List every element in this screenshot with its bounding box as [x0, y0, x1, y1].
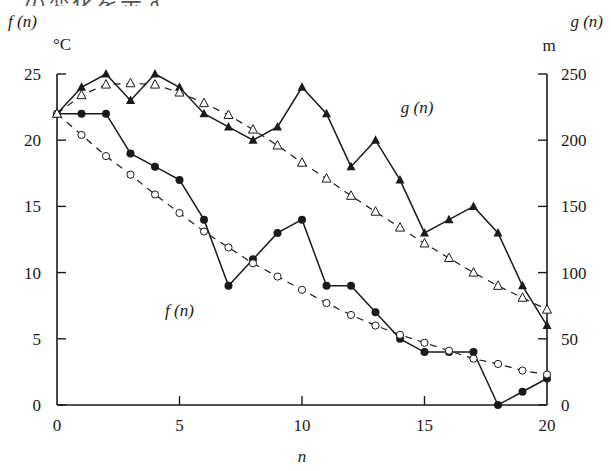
series-g-n-trend	[53, 78, 552, 313]
right-tick-label: 150	[561, 197, 587, 216]
left-tick-label: 20	[24, 131, 41, 150]
open-circle-marker	[78, 131, 85, 138]
series-layer	[53, 69, 552, 409]
filled-triangle-marker	[298, 82, 307, 91]
open-circle-marker	[372, 322, 379, 329]
filled-circle-marker	[347, 282, 355, 290]
right-tick-label: 250	[561, 65, 587, 84]
x-tick-label: 5	[175, 416, 184, 435]
filled-circle-marker	[200, 216, 208, 224]
labels-layer: nf (n)°Cg (n)mg (n)f (n)	[8, 12, 603, 466]
open-circle-marker	[102, 152, 109, 159]
open-triangle-marker	[494, 281, 503, 290]
right-tick-label: 100	[561, 264, 587, 283]
filled-circle-marker	[151, 163, 159, 171]
open-triangle-marker	[420, 238, 429, 247]
open-circle-marker	[519, 367, 526, 374]
open-triangle-marker	[518, 293, 527, 302]
open-circle-marker	[421, 339, 428, 346]
filled-triangle-marker	[102, 69, 111, 78]
x-tick-label: 15	[416, 416, 433, 435]
filled-circle-marker	[323, 282, 331, 290]
left-axis-unit: °C	[53, 35, 71, 54]
x-tick-label: 10	[294, 416, 311, 435]
x-tick-label: 0	[53, 416, 62, 435]
filled-circle-marker	[494, 401, 502, 409]
filled-triangle-marker	[445, 215, 454, 224]
open-triangle-marker	[469, 268, 478, 277]
left-tick-label: 5	[33, 330, 42, 349]
open-triangle-marker	[200, 98, 209, 107]
left-tick-label: 15	[24, 197, 41, 216]
open-circle-marker	[127, 171, 134, 178]
filled-triangle-marker	[151, 69, 160, 78]
left-tick-label: 0	[33, 396, 42, 415]
filled-circle-marker	[519, 388, 527, 396]
left-tick-label: 25	[24, 65, 41, 84]
open-circle-marker	[396, 331, 403, 338]
open-circle-marker	[151, 191, 158, 198]
filled-circle-marker	[78, 110, 86, 118]
open-triangle-marker	[224, 110, 233, 119]
x-axis-title: n	[298, 447, 307, 466]
series-annotation: g (n)	[401, 98, 434, 117]
filled-triangle-marker	[249, 135, 258, 144]
open-circle-marker	[494, 360, 501, 367]
filled-triangle-marker	[224, 122, 233, 131]
x-tick-label: 20	[539, 416, 556, 435]
open-triangle-marker	[396, 223, 405, 232]
filled-circle-marker	[102, 110, 110, 118]
open-triangle-marker	[126, 78, 135, 87]
open-triangle-marker	[371, 207, 380, 216]
right-axis-unit: m	[542, 36, 555, 55]
open-triangle-marker	[322, 174, 331, 183]
axes: 051015202505010015020025005101520	[24, 65, 587, 435]
open-triangle-marker	[102, 80, 111, 89]
left-axis-title: f (n)	[8, 12, 37, 31]
filled-circle-marker	[274, 229, 282, 237]
open-triangle-marker	[445, 253, 454, 262]
open-triangle-marker	[543, 305, 552, 314]
open-circle-marker	[470, 355, 477, 362]
open-circle-marker	[225, 244, 232, 251]
filled-circle-marker	[421, 348, 429, 356]
filled-triangle-marker	[469, 201, 478, 210]
open-circle-marker	[323, 299, 330, 306]
open-circle-marker	[200, 228, 207, 235]
right-tick-label: 0	[561, 396, 570, 415]
open-circle-marker	[298, 286, 305, 293]
open-circle-marker	[249, 260, 256, 267]
right-tick-label: 50	[561, 330, 578, 349]
right-tick-label: 200	[561, 131, 587, 150]
open-triangle-marker	[249, 125, 258, 134]
filled-circle-marker	[298, 216, 306, 224]
filled-circle-marker	[225, 282, 233, 290]
filled-circle-marker	[127, 149, 135, 157]
open-triangle-marker	[347, 191, 356, 200]
left-tick-label: 10	[24, 264, 41, 283]
open-circle-marker	[543, 371, 550, 378]
open-triangle-marker	[298, 158, 307, 167]
open-circle-marker	[176, 209, 183, 216]
filled-triangle-marker	[371, 135, 380, 144]
open-triangle-marker	[151, 80, 160, 89]
series-f-n-observed	[53, 110, 551, 409]
filled-triangle-marker	[518, 281, 527, 290]
open-circle-marker	[274, 273, 281, 280]
right-axis-title: g (n)	[570, 12, 603, 31]
filled-triangle-marker	[420, 228, 429, 237]
filled-circle-marker	[176, 176, 184, 184]
open-circle-marker	[347, 311, 354, 318]
open-circle-marker	[445, 347, 452, 354]
filled-circle-marker	[372, 308, 380, 316]
series-annotation: f (n)	[165, 301, 194, 320]
open-triangle-marker	[273, 140, 282, 149]
dual-axis-line-chart: 051015202505010015020025005101520 nf (n)…	[0, 0, 611, 471]
